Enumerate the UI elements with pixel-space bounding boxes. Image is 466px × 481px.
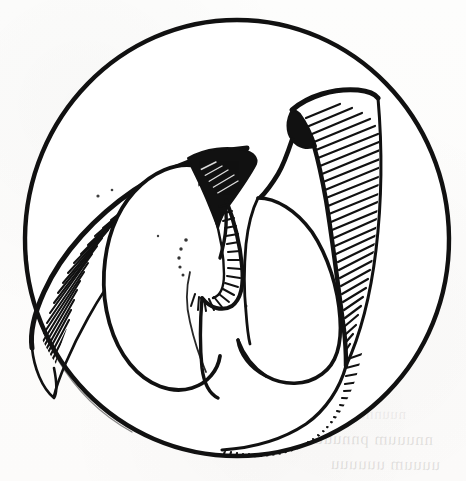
line-drawing [0,0,466,481]
figure-page: nuunnuu nnuuum pnnuuu uuuum uuuuuu [0,0,466,481]
